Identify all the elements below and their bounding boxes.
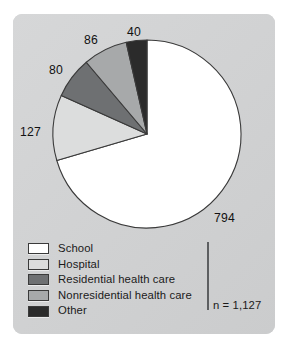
legend-swatch-nonresidential — [28, 290, 49, 301]
legend-swatch-residential — [28, 274, 49, 285]
legend-swatch-hospital — [28, 259, 49, 270]
legend-swatch-other — [28, 306, 49, 317]
legend-item-label: School — [58, 241, 93, 257]
pie-chart-figure: 794 127 80 86 40 SchoolHospitalResidenti… — [0, 0, 288, 348]
legend-item-label: Nonresidential health care — [58, 288, 192, 304]
legend-divider — [207, 242, 209, 310]
slice-value-label-other: 40 — [127, 25, 141, 39]
pie-slices — [53, 40, 241, 228]
legend-swatch-school — [28, 243, 49, 254]
legend-item-label: Residential health care — [58, 272, 175, 288]
slice-value-label-residential: 80 — [49, 63, 63, 77]
slice-value-label-nonresidential: 86 — [84, 33, 98, 47]
slice-value-label-school: 794 — [214, 211, 235, 225]
legend-item-label: Hospital — [58, 257, 100, 273]
legend-item-label: Other — [58, 303, 87, 319]
slice-value-label-hospital: 127 — [20, 125, 41, 139]
sample-size-label: n = 1,127 — [213, 299, 261, 311]
